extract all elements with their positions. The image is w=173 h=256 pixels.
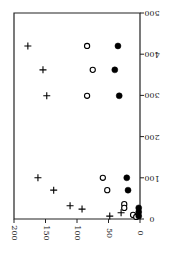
filled-circle-marker	[116, 93, 122, 99]
right-axis-tick-label: 300	[144, 91, 159, 100]
plot-frame	[14, 13, 140, 219]
data-points	[24, 42, 141, 219]
bottom-axis-ticks: 050100150200	[10, 219, 145, 241]
axes-box	[14, 13, 140, 219]
filled-circle-marker	[115, 43, 121, 49]
series-plus	[24, 42, 124, 219]
bottom-axis-tick-label: 0	[136, 230, 145, 235]
open-circle-marker	[84, 43, 89, 48]
right-axis-tick-label: 400	[144, 50, 159, 59]
filled-circle-marker	[125, 187, 131, 193]
right-axis-tick-label: 200	[144, 133, 159, 142]
bottom-axis-tick-label: 50	[105, 228, 114, 238]
plus-marker	[67, 202, 74, 209]
filled-circle-marker	[124, 175, 130, 181]
open-circle-marker	[84, 93, 89, 98]
open-circle-marker	[100, 175, 105, 180]
right-axis-ticks: 0100200300400500	[140, 9, 160, 224]
filled-circle-marker	[112, 67, 118, 73]
plus-marker	[79, 206, 86, 213]
open-circle-marker	[105, 188, 110, 193]
bottom-axis-tick-label: 150	[42, 225, 51, 240]
right-axis-tick-label: 100	[144, 174, 159, 183]
plus-marker	[43, 92, 50, 99]
plus-marker	[50, 187, 57, 194]
plus-marker	[39, 66, 46, 73]
bottom-axis-tick-label: 200	[10, 225, 19, 240]
plus-marker	[24, 42, 31, 49]
series-filled-circle	[112, 43, 142, 219]
open-circle-marker	[90, 67, 95, 72]
bottom-axis-tick-label: 100	[73, 225, 82, 240]
filled-circle-marker	[136, 213, 142, 219]
scatter-chart: 0100200300400500 050100150200	[0, 0, 173, 256]
open-circle-marker	[122, 205, 127, 210]
right-axis-tick-label: 500	[144, 9, 159, 18]
plus-marker	[34, 174, 41, 181]
right-axis-tick-label: 0	[149, 215, 154, 224]
